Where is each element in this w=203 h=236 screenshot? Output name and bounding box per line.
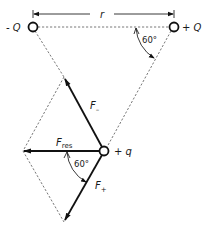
distance-label: r (100, 9, 105, 20)
f-res-label: Fres (56, 137, 73, 150)
f-minus-label: F– (90, 100, 100, 114)
bottom-angle: 60° (64, 152, 89, 182)
neg-Q-label: - Q (6, 22, 21, 33)
distance-dimension: r (33, 9, 174, 20)
test-q-circle-icon (100, 147, 109, 156)
neg-Q-to-f-minus-line (35, 31, 64, 77)
charge-neg-Q: - Q (6, 22, 38, 33)
charge-test-q: + q (100, 146, 132, 157)
neg-Q-circle-icon (29, 23, 38, 32)
pos-Q-circle-icon (170, 23, 179, 32)
top-angle: 60° (134, 28, 157, 58)
parallelogram-lower-left (23, 151, 64, 222)
bottom-angle-label: 60° (74, 159, 89, 169)
f-plus-label: F+ (95, 180, 107, 194)
construction-lines (23, 27, 171, 222)
pos-Q-to-q-line (107, 31, 171, 147)
test-q-label: + q (114, 146, 132, 157)
coulomb-force-diagram: r 60° 60° F– Fres F+ - Q + Q + q (0, 0, 203, 236)
pos-Q-label: + Q (182, 22, 202, 33)
top-angle-label: 60° (142, 35, 157, 45)
charge-pos-Q: + Q (170, 22, 202, 33)
